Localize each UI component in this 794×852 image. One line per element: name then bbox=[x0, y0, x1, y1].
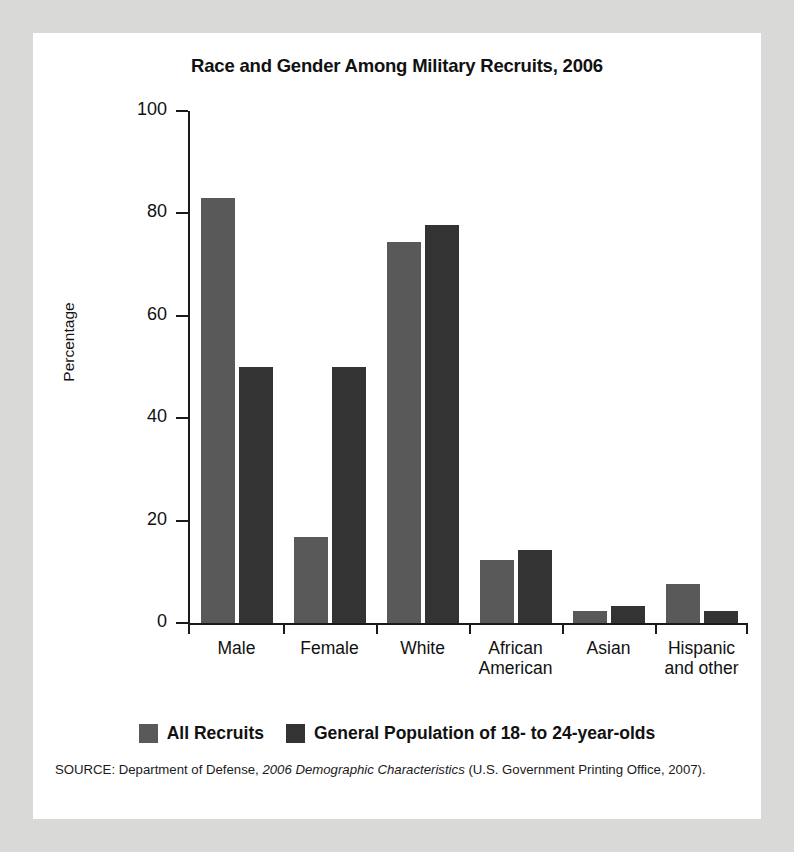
x-axis-label-line: Female bbox=[283, 639, 376, 659]
y-axis-tick bbox=[176, 315, 188, 317]
x-axis-label-line: American bbox=[469, 659, 562, 679]
y-axis-tick-label: 60 bbox=[107, 304, 167, 325]
x-axis-label-line: Hispanic bbox=[655, 639, 748, 659]
y-axis-tick bbox=[176, 417, 188, 419]
legend-entry-all-recruits: All Recruits bbox=[139, 723, 264, 744]
bar-african-american-all-recruits bbox=[480, 560, 514, 623]
bar-white-all-recruits bbox=[387, 242, 421, 623]
x-axis-label-asian: Asian bbox=[562, 639, 655, 659]
bar-asian-general-population-of-18-to-24-year-olds bbox=[611, 606, 645, 623]
bar-male-general-population-of-18-to-24-year-olds bbox=[239, 367, 273, 623]
x-axis-label-african-american: AfricanAmerican bbox=[469, 639, 562, 679]
bar-hispanic-and-other-all-recruits bbox=[666, 584, 700, 623]
legend-entry-general-population-of-18-to-24-year-olds: General Population of 18- to 24-year-old… bbox=[286, 723, 655, 744]
x-axis-label-line: and other bbox=[655, 659, 748, 679]
legend-swatch bbox=[286, 724, 305, 743]
x-axis-label-white: White bbox=[376, 639, 469, 659]
x-axis-tick bbox=[376, 623, 378, 634]
x-axis-tick bbox=[469, 623, 471, 634]
y-axis-tick bbox=[176, 622, 188, 624]
legend-label: General Population of 18- to 24-year-old… bbox=[314, 723, 655, 744]
figure-card: Race and Gender Among Military Recruits,… bbox=[33, 33, 761, 819]
x-axis-tick bbox=[655, 623, 657, 634]
x-axis-label-line: Male bbox=[190, 639, 283, 659]
x-axis-label-hispanic-and-other: Hispanicand other bbox=[655, 639, 748, 679]
bar-white-general-population-of-18-to-24-year-olds bbox=[425, 225, 459, 623]
plot-area: Percentage 020406080100 MaleFemaleWhiteA… bbox=[33, 33, 761, 819]
legend-swatch bbox=[139, 724, 158, 743]
y-axis-tick-label: 100 bbox=[107, 99, 167, 120]
legend-label: All Recruits bbox=[167, 723, 264, 744]
x-axis-tick bbox=[562, 623, 564, 634]
y-axis-tick-label: 40 bbox=[107, 406, 167, 427]
bar-asian-all-recruits bbox=[573, 611, 607, 623]
x-axis-label-female: Female bbox=[283, 639, 376, 659]
bar-african-american-general-population-of-18-to-24-year-olds bbox=[518, 550, 552, 623]
x-axis-label-line: Asian bbox=[562, 639, 655, 659]
x-axis-label-line: African bbox=[469, 639, 562, 659]
source-title-italic: 2006 Demographic Characteristics bbox=[262, 762, 464, 777]
chart-legend: All RecruitsGeneral Population of 18- to… bbox=[33, 723, 761, 744]
bar-hispanic-and-other-general-population-of-18-to-24-year-olds bbox=[704, 611, 738, 623]
x-axis-tick bbox=[746, 623, 748, 634]
source-prefix: SOURCE: Department of Defense, bbox=[55, 762, 262, 777]
y-axis-tick bbox=[176, 212, 188, 214]
bar-female-general-population-of-18-to-24-year-olds bbox=[332, 367, 366, 623]
x-axis-tick bbox=[188, 623, 190, 634]
x-axis-line bbox=[188, 623, 748, 625]
y-axis-tick bbox=[176, 110, 188, 112]
y-axis-tick-label: 80 bbox=[107, 201, 167, 222]
bar-female-all-recruits bbox=[294, 537, 328, 623]
y-axis-title: Percentage bbox=[60, 262, 78, 422]
bar-series-layer bbox=[190, 111, 748, 623]
y-axis-tick-label: 0 bbox=[107, 611, 167, 632]
y-axis-tick bbox=[176, 520, 188, 522]
source-note: SOURCE: Department of Defense, 2006 Demo… bbox=[55, 761, 735, 779]
bar-male-all-recruits bbox=[201, 198, 235, 623]
y-axis-tick-label: 20 bbox=[107, 509, 167, 530]
x-axis-label-line: White bbox=[376, 639, 469, 659]
x-axis-label-male: Male bbox=[190, 639, 283, 659]
source-suffix: (U.S. Government Printing Office, 2007). bbox=[465, 762, 706, 777]
x-axis-tick bbox=[283, 623, 285, 634]
